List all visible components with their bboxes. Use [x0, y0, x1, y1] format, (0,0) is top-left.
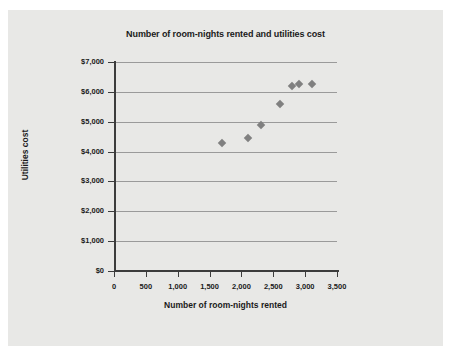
- x-tick: [114, 271, 115, 277]
- y-tick: [108, 211, 115, 212]
- x-axis-label: Number of room-nights rented: [8, 300, 443, 310]
- y-tick: [108, 152, 115, 153]
- gridline: [114, 62, 337, 63]
- y-tick: [108, 181, 115, 182]
- chart-title: Number of room-nights rented and utiliti…: [8, 29, 443, 39]
- y-tick-label: $0: [44, 266, 104, 275]
- y-tick-label: $6,000: [44, 87, 104, 96]
- gridline: [114, 92, 337, 93]
- y-tick-label: $3,000: [44, 176, 104, 185]
- y-tick: [108, 92, 115, 93]
- chart-figure: Number of room-nights rented and utiliti…: [8, 10, 443, 346]
- x-tick: [241, 271, 242, 277]
- x-tick: [146, 271, 147, 277]
- x-tick: [210, 271, 211, 277]
- x-tick: [178, 271, 179, 277]
- y-tick: [108, 241, 115, 242]
- y-tick: [108, 122, 115, 123]
- x-tick: [273, 271, 274, 277]
- gridline: [114, 152, 337, 153]
- gridline: [114, 122, 337, 123]
- y-tick-label: $7,000: [44, 57, 104, 66]
- plot-area: [114, 62, 337, 271]
- x-tick: [337, 271, 338, 277]
- x-tick: [305, 271, 306, 277]
- y-tick: [108, 62, 115, 63]
- y-tick-label: $1,000: [44, 236, 104, 245]
- y-tick-label: $2,000: [44, 206, 104, 215]
- y-tick-label: $5,000: [44, 117, 104, 126]
- x-tick-label: 3,500: [317, 282, 357, 291]
- gridline: [114, 181, 337, 182]
- gridline: [114, 241, 337, 242]
- y-tick-label: $4,000: [44, 147, 104, 156]
- gridline: [114, 211, 337, 212]
- y-axis-label: Utilities cost: [20, 100, 30, 210]
